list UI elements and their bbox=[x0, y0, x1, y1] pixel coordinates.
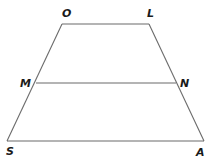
vertex-label-S: S bbox=[6, 145, 14, 158]
vertex-label-A: A bbox=[195, 146, 205, 159]
vertex-label-M: M bbox=[20, 77, 31, 90]
vertex-label-L: L bbox=[147, 7, 154, 20]
trapezoid-diagram: O L M N S A bbox=[0, 0, 207, 160]
vertex-label-N: N bbox=[180, 77, 189, 90]
vertex-label-O: O bbox=[62, 7, 71, 20]
